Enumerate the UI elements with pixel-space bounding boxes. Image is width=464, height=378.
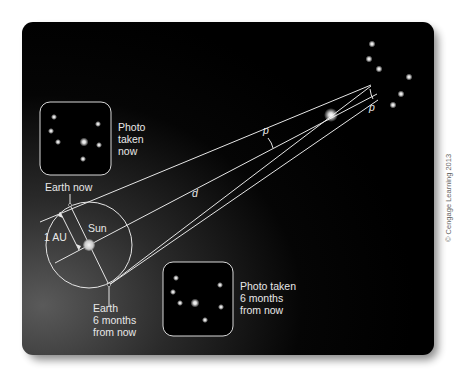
earth-now-label: Earth now xyxy=(45,181,93,193)
photo-now-frame xyxy=(40,102,111,175)
parallax-diagram: Photo taken now Photo taken 6 months fro… xyxy=(0,0,464,378)
photo-later-label-3: from now xyxy=(240,304,284,316)
photo-star xyxy=(170,289,176,295)
photo-later-box xyxy=(163,262,233,336)
sun xyxy=(83,239,95,251)
photo-star xyxy=(173,275,179,281)
photo-star xyxy=(48,128,54,134)
photo-near-star xyxy=(80,138,89,147)
photo-now-label-1: Photo xyxy=(118,121,146,133)
distant-star xyxy=(366,56,373,63)
earth-later-dot xyxy=(108,284,111,287)
distant-star xyxy=(398,91,405,98)
earth-later-label-2: 6 months xyxy=(93,314,136,326)
photo-later-label-2: 6 months xyxy=(240,292,283,304)
photo-now-label-2: taken xyxy=(118,133,144,145)
photo-star xyxy=(202,317,208,323)
photo-now-box xyxy=(40,102,111,175)
distant-star xyxy=(369,41,376,48)
sun-label: Sun xyxy=(88,222,107,234)
distant-star xyxy=(406,74,413,81)
photo-star xyxy=(218,304,224,310)
photo-star xyxy=(51,114,57,120)
photo-near-star xyxy=(191,299,200,308)
au-label: 1 AU xyxy=(44,231,67,243)
distant-star xyxy=(390,102,397,109)
photo-now-label-3: now xyxy=(118,145,138,157)
photo-later-label-1: Photo taken xyxy=(240,280,296,292)
photo-star xyxy=(217,282,223,288)
photo-star xyxy=(80,156,86,162)
earth-later-label-3: from now xyxy=(93,326,137,338)
photo-star xyxy=(95,121,101,127)
parallax-angle-far-label: p xyxy=(368,101,375,113)
photo-star xyxy=(55,139,61,145)
distant-star xyxy=(376,66,383,73)
parallax-angle-label: p xyxy=(262,124,269,136)
photo-star xyxy=(177,300,183,306)
earth-later-label-1: Earth xyxy=(93,302,118,314)
near-star xyxy=(324,108,338,122)
credit-text: © Cengage Learning 2013 xyxy=(444,154,453,242)
earth-now-dot xyxy=(69,204,72,207)
photo-later-frame xyxy=(163,262,233,336)
photo-star xyxy=(96,142,102,148)
